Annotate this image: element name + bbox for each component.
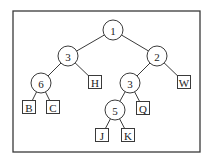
internal-node: 6 [31, 73, 51, 93]
node-label: H [91, 77, 99, 89]
tree-edges [29, 30, 184, 135]
node-label: J [100, 130, 105, 142]
node-label: K [124, 130, 132, 142]
node-label: W [179, 77, 190, 89]
internal-node: 3 [120, 73, 140, 93]
internal-node: 5 [105, 100, 125, 120]
leaf-node: W [178, 76, 191, 89]
node-label: 6 [38, 78, 44, 90]
internal-node: 2 [147, 46, 167, 66]
leaf-node: Q [137, 102, 150, 115]
leaf-node: H [89, 76, 102, 89]
node-label: 3 [65, 51, 71, 63]
internal-node: 3 [58, 46, 78, 66]
node-label: B [25, 102, 32, 114]
leaf-node: K [122, 129, 135, 142]
node-label: Q [139, 103, 147, 115]
tree-nodes: 1326H3WBC5QJK [23, 20, 191, 142]
node-label: 3 [127, 78, 133, 90]
node-label: C [49, 102, 56, 114]
binary-tree-diagram: 1326H3WBC5QJK [0, 0, 211, 159]
leaf-node: B [23, 101, 36, 114]
leaf-node: J [96, 129, 109, 142]
node-label: 5 [112, 105, 118, 117]
internal-node: 1 [103, 20, 123, 40]
node-label: 2 [154, 51, 160, 63]
node-label: 1 [110, 25, 116, 37]
leaf-node: C [47, 101, 60, 114]
